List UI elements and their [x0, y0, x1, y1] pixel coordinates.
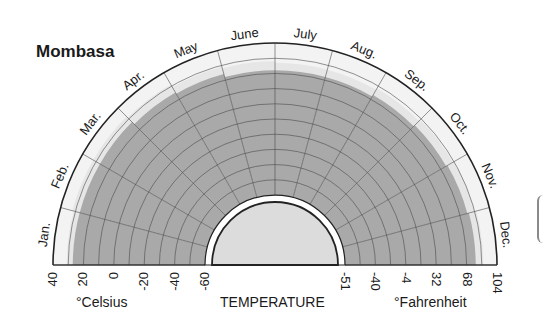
climate-chart: Mombasa Jan.Feb.Mar.Apr.MayJuneJulyAug.S… — [0, 0, 548, 332]
fahrenheit-tick-label: -51 — [338, 272, 353, 291]
fahrenheit-tick-label: 68 — [460, 272, 475, 286]
month-label: Dec. — [497, 220, 515, 248]
fahrenheit-tick-label: 104 — [490, 272, 505, 294]
fahrenheit-tick-label: -4 — [399, 272, 414, 284]
radial-temperature-chart: Mombasa Jan.Feb.Mar.Apr.MayJuneJulyAug.S… — [0, 0, 548, 332]
celsius-tick-label: 0 — [106, 272, 121, 279]
plot-area — [53, 43, 497, 265]
celsius-tick-label: 20 — [75, 272, 90, 286]
fahrenheit-tick-label: 32 — [429, 272, 444, 286]
month-label: July — [293, 25, 318, 43]
celsius-tick-label: 40 — [45, 272, 60, 286]
celsius-tick-label: -60 — [197, 272, 212, 291]
celsius-tick-label: -40 — [167, 272, 182, 291]
fahrenheit-axis-label: °Fahrenheit — [394, 294, 467, 310]
page-edge-decoration — [537, 195, 545, 243]
celsius-ticks: 40200-20-40-60 — [45, 272, 212, 291]
month-label: Jan. — [35, 221, 53, 247]
center-label: TEMPERATURE — [220, 294, 325, 310]
fahrenheit-tick-label: -40 — [368, 272, 383, 291]
month-label: June — [230, 25, 260, 44]
celsius-tick-label: -20 — [136, 272, 151, 291]
celsius-axis-label: °Celsius — [76, 294, 128, 310]
fahrenheit-ticks: -51-40-43268104 — [338, 272, 505, 294]
chart-title: Mombasa — [36, 42, 115, 61]
